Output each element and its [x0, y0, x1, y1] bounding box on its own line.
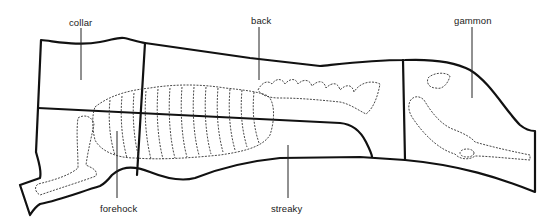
- carcass-outline: [20, 38, 535, 215]
- rib-cage-bones: [93, 85, 274, 159]
- collar-back-division: [137, 43, 145, 175]
- gammon-bone-patella: [460, 149, 474, 157]
- back-gammon-division: [403, 60, 405, 160]
- pork-cuts-diagram: collar back gammon forehock streaky: [0, 0, 560, 222]
- foreleg-bone: [36, 116, 97, 195]
- label-back: back: [251, 15, 271, 26]
- gammon-bone-upper: [427, 73, 450, 88]
- label-gammon: gammon: [454, 15, 492, 26]
- label-collar: collar: [69, 17, 92, 28]
- label-forehock: forehock: [100, 203, 137, 214]
- spine-bone: [258, 80, 380, 115]
- carcass-drawing: [0, 0, 560, 222]
- label-streaky: streaky: [271, 203, 302, 214]
- gammon-bone-femur: [409, 97, 530, 160]
